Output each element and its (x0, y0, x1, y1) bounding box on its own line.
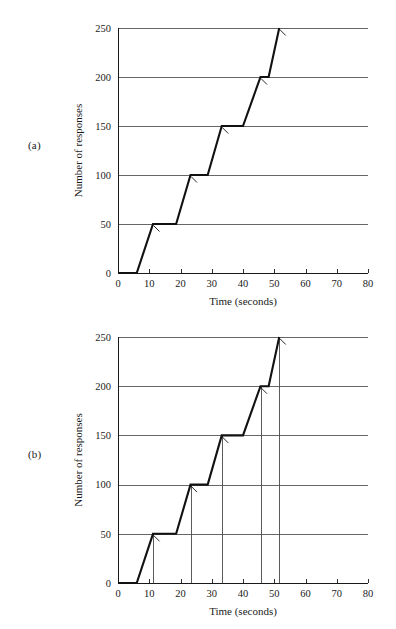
y-tick-label-150: 150 (95, 430, 111, 441)
cumulative-response-curve (118, 28, 279, 273)
x-tick-label-20: 20 (175, 278, 186, 289)
y-tick-label-150: 150 (95, 121, 111, 132)
cumulative-record-plot-a: 01020304050607080050100150200250Time (se… (0, 0, 396, 315)
x-tick-label-0: 0 (115, 278, 120, 289)
y-tick-label-50: 50 (101, 529, 112, 540)
figure-page: (a) 01020304050607080050100150200250Time… (0, 0, 396, 629)
false (222, 437, 228, 443)
y-tick-label-50: 50 (101, 219, 112, 230)
chart-panel-a: (a) 01020304050607080050100150200250Time… (0, 0, 396, 315)
y-tick-label-0: 0 (106, 578, 111, 589)
x-ticks-group: 01020304050607080 (115, 269, 373, 290)
x-axis-title: Time (seconds) (209, 605, 277, 618)
axes-group (118, 28, 368, 274)
x-tick-label-60: 60 (300, 588, 311, 599)
false (261, 388, 267, 394)
axes-group (118, 337, 368, 584)
x-tick-label-30: 30 (207, 588, 218, 599)
x-tick-label-80: 80 (363, 278, 374, 289)
false (154, 226, 160, 232)
y-tick-label-0: 0 (106, 268, 111, 279)
false (222, 128, 228, 134)
x-axis-title: Time (seconds) (209, 295, 277, 308)
x-tick-label-40: 40 (238, 278, 249, 289)
x-tick-label-10: 10 (144, 588, 155, 599)
false (191, 177, 197, 183)
y-tick-label-200: 200 (95, 381, 111, 392)
y-axis-title: Number of responses (72, 413, 84, 506)
x-tick-label-50: 50 (269, 588, 280, 599)
x-tick-label-70: 70 (332, 278, 343, 289)
y-tick-label-250: 250 (95, 332, 111, 343)
x-tick-label-30: 30 (207, 278, 218, 289)
false (191, 486, 197, 492)
x-tick-label-60: 60 (300, 278, 311, 289)
x-tick-label-70: 70 (332, 588, 343, 599)
y-axis-title: Number of responses (72, 104, 84, 197)
x-tick-label-40: 40 (238, 588, 249, 599)
y-tick-label-250: 250 (95, 23, 111, 34)
cumulative-record-plot-b: 01020304050607080050100150200250Time (se… (0, 309, 396, 629)
x-tick-label-20: 20 (175, 588, 186, 599)
droplines-group (154, 337, 280, 583)
y-ticks-group: 050100150200250 (95, 332, 111, 589)
y-tick-label-100: 100 (95, 170, 111, 181)
false (280, 30, 286, 36)
cumulative-response-curve (118, 337, 279, 583)
false (261, 79, 267, 85)
x-tick-label-50: 50 (269, 278, 280, 289)
x-tick-label-10: 10 (144, 278, 155, 289)
false (280, 339, 286, 345)
chart-panel-b: (b) 01020304050607080050100150200250Time… (0, 309, 396, 629)
false (154, 535, 160, 541)
x-tick-label-0: 0 (115, 588, 120, 599)
y-tick-label-200: 200 (95, 72, 111, 83)
x-tick-label-80: 80 (363, 588, 374, 599)
x-ticks-group: 01020304050607080 (115, 579, 373, 600)
y-tick-label-100: 100 (95, 479, 111, 490)
y-ticks-group: 050100150200250 (95, 23, 111, 279)
